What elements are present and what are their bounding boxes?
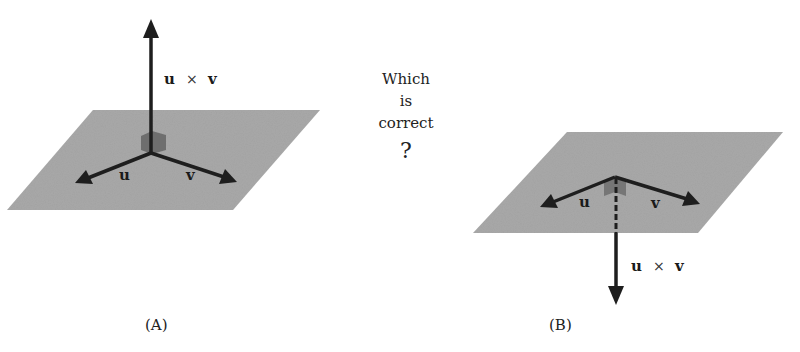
cross-label-v: v xyxy=(207,70,218,88)
arrowhead-up-icon xyxy=(143,19,159,38)
u-label-b: u xyxy=(579,193,590,211)
cross-product-diagram: u v u × v u v u × v xyxy=(0,0,800,352)
cross-label-b: u × v xyxy=(631,257,685,275)
cross-label-op: × xyxy=(653,258,665,274)
question-line-2: is xyxy=(360,90,452,112)
cross-label-v: v xyxy=(674,257,685,275)
cross-label-u: u xyxy=(631,257,642,275)
caption-a: (A) xyxy=(145,316,168,334)
v-label-a: v xyxy=(185,166,196,184)
figure-a xyxy=(7,19,320,210)
v-label-b: v xyxy=(650,194,661,212)
question-line-3: correct xyxy=(360,112,452,134)
question-line-1: Which xyxy=(360,68,452,90)
cross-label-u: u xyxy=(164,70,175,88)
plane-a xyxy=(7,110,320,210)
right-angle-marker-a xyxy=(141,131,166,154)
caption-b: (B) xyxy=(549,316,572,334)
question-text: Which is correct ? xyxy=(360,68,452,168)
cross-label-op: × xyxy=(186,71,198,87)
cross-label-a: u × v xyxy=(164,70,218,88)
question-mark: ? xyxy=(360,134,452,168)
arrowhead-down-icon xyxy=(608,286,624,305)
figure-b xyxy=(473,132,783,305)
u-label-a: u xyxy=(119,166,130,184)
